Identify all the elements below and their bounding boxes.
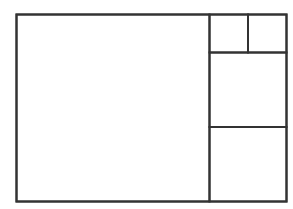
top-right-small-right-panel [248,15,287,53]
top-right-small-left-panel [210,15,249,53]
large-left-panel [17,15,210,202]
bottom-right-panel [210,127,287,202]
middle-right-panel [210,53,287,128]
outer-frame [17,15,287,202]
rectangle-partition-diagram [0,0,293,209]
